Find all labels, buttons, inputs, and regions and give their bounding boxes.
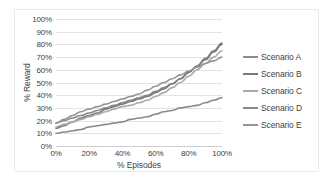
legend-item-label: Scenario A bbox=[261, 52, 301, 62]
gridline bbox=[56, 146, 222, 147]
legend-swatch-icon bbox=[243, 73, 258, 75]
x-axis-tick-label: 40% bbox=[115, 149, 130, 158]
x-axis-tick-label: 80% bbox=[181, 149, 196, 158]
y-axis-title: % Reward bbox=[21, 19, 33, 146]
y-axis-tick-label: 80% bbox=[37, 40, 52, 49]
x-axis-tick-label: 20% bbox=[81, 149, 96, 158]
x-axis-title: % Episodes bbox=[56, 160, 222, 170]
x-axis-tick-label: 0% bbox=[50, 149, 61, 158]
legend-item[interactable]: Scenario B bbox=[243, 65, 329, 82]
legend-item-label: Scenario B bbox=[261, 69, 302, 79]
legend-item[interactable]: Scenario E bbox=[243, 116, 329, 133]
legend-swatch-icon bbox=[243, 107, 258, 109]
x-axis-tick-label: 100% bbox=[212, 149, 232, 158]
y-axis-tick-label: 90% bbox=[37, 27, 52, 36]
y-axis-tick-label: 40% bbox=[37, 91, 52, 100]
y-axis-tick-label: 70% bbox=[37, 53, 52, 62]
x-axis-tick-label: 60% bbox=[148, 149, 163, 158]
legend-swatch-icon bbox=[243, 124, 258, 126]
y-axis-tick-label: 30% bbox=[37, 103, 52, 112]
series-lines bbox=[56, 19, 222, 146]
legend-swatch-icon bbox=[243, 56, 258, 58]
legend-item[interactable]: Scenario A bbox=[243, 48, 329, 65]
series-line bbox=[56, 57, 222, 123]
y-axis-tick-label: 20% bbox=[37, 116, 52, 125]
y-axis-tick-label: 100% bbox=[32, 15, 52, 24]
y-axis-tick-label: 60% bbox=[37, 65, 52, 74]
legend-item-label: Scenario C bbox=[261, 86, 302, 96]
y-axis-tick-label: 50% bbox=[37, 78, 52, 87]
legend-item-label: Scenario E bbox=[261, 120, 302, 130]
chart-container: 0%10%20%30%40%50%60%70%80%90%100% 0%20%4… bbox=[14, 9, 319, 172]
legend-item[interactable]: Scenario C bbox=[243, 82, 329, 99]
plot-area: 0%10%20%30%40%50%60%70%80%90%100% 0%20%4… bbox=[56, 19, 222, 146]
legend-item[interactable]: Scenario D bbox=[243, 99, 329, 116]
chart-legend: Scenario AScenario BScenario CScenario D… bbox=[243, 48, 329, 133]
legend-swatch-icon bbox=[243, 90, 258, 92]
y-axis-tick-label: 10% bbox=[37, 129, 52, 138]
legend-item-label: Scenario D bbox=[261, 103, 302, 113]
